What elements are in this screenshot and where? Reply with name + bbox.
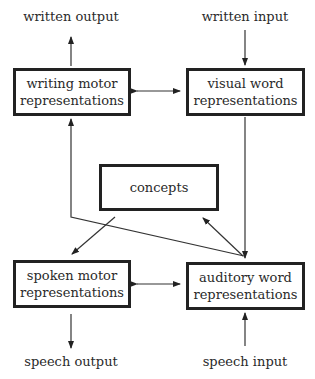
written-output-label: written output [0, 9, 142, 24]
spoken-motor-line2: representations [20, 284, 124, 301]
speech-output-label: speech output [0, 354, 142, 369]
writing-motor-box: writing motor representations [13, 68, 131, 116]
visual-word-line2: representations [193, 92, 297, 109]
writing-motor-line1: writing motor [26, 75, 117, 92]
speech-input-label: speech input [175, 354, 315, 369]
auditory-word-line1: auditory word [199, 269, 292, 286]
visual-word-line1: visual word [207, 75, 283, 92]
visual-word-box: visual word representations [186, 68, 305, 116]
writing-motor-line2: representations [20, 92, 124, 109]
concepts-label: concepts [130, 179, 189, 196]
arrow-auditory-to-concepts [203, 218, 243, 256]
written-input-label: written input [175, 9, 315, 24]
auditory-word-box: auditory word representations [186, 262, 305, 310]
spoken-motor-line1: spoken motor [27, 267, 117, 284]
concepts-box: concepts [99, 164, 219, 211]
auditory-word-line2: representations [193, 286, 297, 303]
spoken-motor-box: spoken motor representations [13, 260, 131, 308]
